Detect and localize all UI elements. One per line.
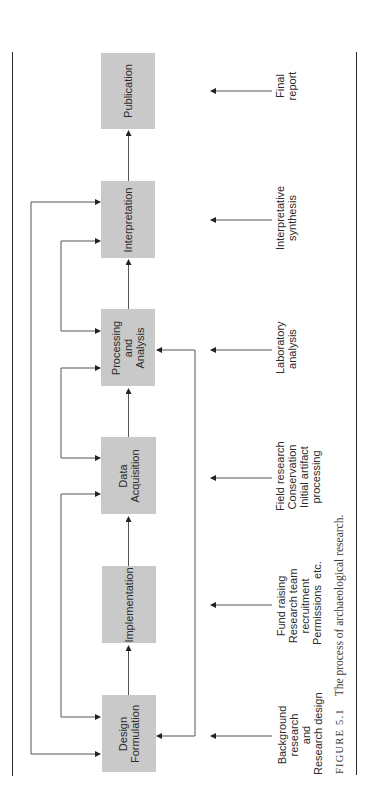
caption-text: The process of archaeological research.: [333, 515, 345, 697]
stage-label: Implementation: [123, 567, 135, 642]
annotation-fund-raising: Fund raising Research team recruitment P…: [275, 567, 323, 645]
annotation-final-report: Final report: [274, 66, 298, 106]
stage-label: Interpretation: [122, 187, 134, 252]
stage-label: Processing and Analysis: [110, 320, 146, 374]
figure-label: FIGURE 5.1: [334, 708, 345, 774]
stage-processing-analysis: Processing and Analysis: [101, 309, 155, 386]
figure-canvas: Publication Interpretation Processing an…: [0, 0, 368, 809]
stage-interpretation: Interpretation: [101, 181, 155, 258]
stage-label: Data Acquisition: [117, 449, 141, 502]
stage-design-formulation: Design Formulation: [102, 695, 156, 772]
stage-label: Design Formulation: [117, 704, 141, 762]
stage-publication: Publication: [101, 53, 155, 129]
annotation-laboratory-analysis: Laboratory analysis: [274, 324, 298, 374]
figure-caption: FIGURE 5.1The process of archaeological …: [333, 515, 345, 774]
stage-label: Publication: [122, 64, 134, 118]
annotation-background-research: Background research and Research design: [276, 695, 324, 775]
connector-lines: [0, 0, 368, 809]
stage-data-acquisition: Data Acquisition: [101, 437, 156, 514]
annotation-interpretative-synthesis: Interpretative synthesis: [274, 186, 298, 250]
annotation-field-research: Field research Conservation Initial arti…: [274, 443, 322, 511]
stage-implementation: Implementation: [102, 566, 156, 643]
